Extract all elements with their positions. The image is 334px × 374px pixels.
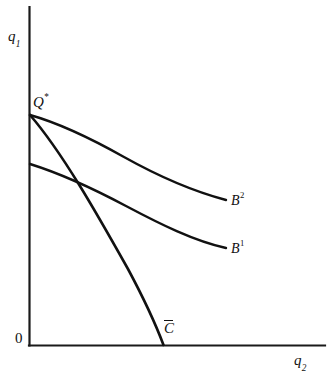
curve-label-b1: B1: [231, 240, 244, 256]
indifference-curve-b2: [30, 115, 226, 200]
x-axis-label-text: q: [294, 352, 302, 368]
optimum-point-letter: Q: [33, 94, 44, 110]
x-axis-label: q2: [294, 353, 306, 371]
curve-label-b1-letter: B: [231, 241, 240, 256]
y-axis-label-text: q: [8, 28, 16, 44]
figure-plot-area: [0, 0, 334, 374]
x-axis-label-subscript: 2: [302, 363, 307, 373]
y-axis-label-subscript: 1: [16, 39, 21, 49]
indifference-curve-b1: [30, 164, 226, 248]
origin-label: 0: [15, 331, 23, 346]
budget-constraint-letter: C: [164, 320, 174, 336]
curve-label-b1-superscript: 1: [240, 238, 244, 248]
curve-label-b2-superscript: 2: [240, 190, 244, 200]
curve-label-b2-letter: B: [231, 193, 240, 208]
curve-label-b2: B2: [231, 192, 244, 208]
budget-constraint-label: C: [164, 320, 174, 336]
y-axis-label: q1: [8, 29, 20, 47]
figure-canvas: q1 q2 0 Q* B2 B1 C: [0, 0, 334, 374]
optimum-point-star: *: [44, 92, 49, 102]
optimum-point-label: Q*: [33, 94, 49, 110]
budget-constraint-line: [30, 115, 164, 345]
